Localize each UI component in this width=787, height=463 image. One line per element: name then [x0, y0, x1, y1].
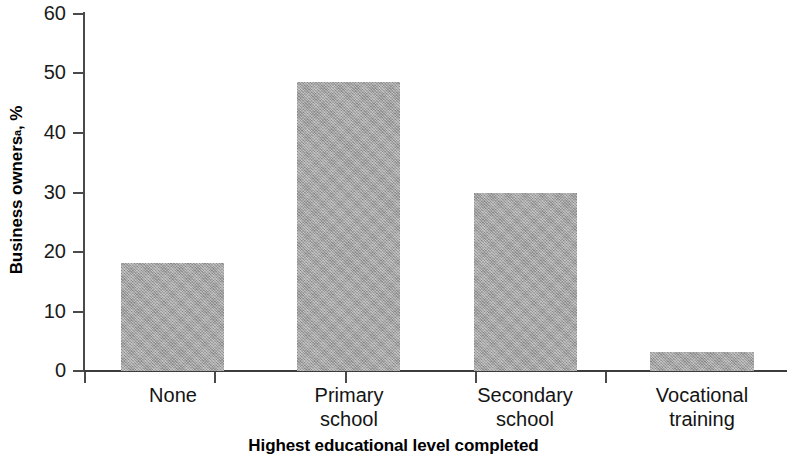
x-category-label-vocational-training: Vocational training [628, 384, 776, 431]
y-tick-mark-30 [73, 192, 84, 194]
x-tick-mark-1 [214, 372, 216, 383]
x-category-label-vocational-training-line-2: training [628, 408, 776, 432]
y-tick-label-10: 10 [0, 301, 66, 321]
y-tick-label-60-wrap: 60 [0, 3, 66, 25]
y-tick-label-60: 60 [0, 3, 66, 23]
x-category-label-secondary-school: Secondary school [451, 384, 599, 431]
x-category-label-secondary-school-line-1: Secondary [451, 384, 599, 408]
y-tick-mark-10 [73, 311, 84, 313]
y-tick-label-10-wrap: 10 [0, 301, 66, 323]
y-tick-label-50-wrap: 50 [0, 62, 66, 84]
y-tick-label-30: 30 [0, 182, 66, 202]
bar-vocational-training [650, 352, 754, 371]
x-tick-mark-3 [475, 372, 477, 383]
y-tick-label-0-wrap: 0 [0, 360, 66, 382]
y-tick-mark-50 [73, 72, 84, 74]
y-tick-label-30-wrap: 30 [0, 182, 66, 204]
bar-none [121, 263, 224, 371]
bar-chart-figure: Business ownersa, % 0 10 20 30 40 50 60 … [0, 0, 787, 463]
x-axis-title: Highest educational level completed [0, 436, 787, 456]
y-tick-mark-0 [73, 370, 84, 372]
x-category-label-none: None [99, 384, 247, 408]
y-tick-mark-60 [73, 13, 84, 15]
y-tick-label-0: 0 [0, 360, 66, 380]
bar-primary-school [297, 82, 400, 371]
x-category-label-secondary-school-line-2: school [451, 408, 599, 432]
y-tick-label-20-wrap: 20 [0, 241, 66, 263]
x-category-label-vocational-training-line-1: Vocational [628, 384, 776, 408]
y-tick-label-40: 40 [0, 122, 66, 142]
x-tick-mark-4 [605, 372, 607, 383]
y-tick-label-40-wrap: 40 [0, 122, 66, 144]
x-category-label-primary-school-line-1: Primary [275, 384, 423, 408]
y-tick-label-20: 20 [0, 241, 66, 261]
y-tick-label-50: 50 [0, 62, 66, 82]
x-category-label-primary-school-line-2: school [275, 408, 423, 432]
bar-secondary-school [474, 193, 577, 371]
x-category-label-none-line-1: None [99, 384, 247, 408]
y-tick-mark-40 [73, 132, 84, 134]
y-tick-mark-20 [73, 251, 84, 253]
x-tick-mark-0 [84, 372, 86, 383]
x-category-label-primary-school: Primary school [275, 384, 423, 431]
x-tick-mark-2 [345, 372, 347, 383]
